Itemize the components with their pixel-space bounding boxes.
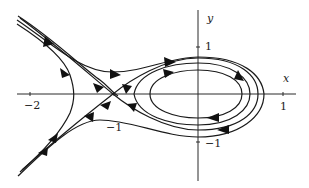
x-tick-label-neg1: −1	[106, 122, 122, 133]
x-tick-label-neg2: −2	[24, 100, 40, 111]
arrow-icon	[127, 103, 137, 112]
stable-separatrix-upper	[20, 18, 113, 94]
x-tick-label-1: 1	[280, 101, 287, 112]
arrow-icon	[60, 68, 70, 78]
left-curve-1	[17, 20, 264, 176]
y-tick-label-1: 1	[205, 41, 212, 52]
x-axis-label: x	[283, 73, 289, 84]
arrow-icon	[217, 125, 229, 134]
arrow-icon	[122, 84, 132, 94]
arrow-icon	[110, 69, 121, 79]
y-tick-label-neg1: −1	[205, 138, 221, 149]
phase-portrait-svg	[0, 0, 309, 188]
phase-portrait-figure: y x 1 −1 −2 −1 1	[0, 0, 309, 188]
arrow-icon	[207, 113, 219, 122]
y-axis-label: y	[207, 13, 213, 24]
